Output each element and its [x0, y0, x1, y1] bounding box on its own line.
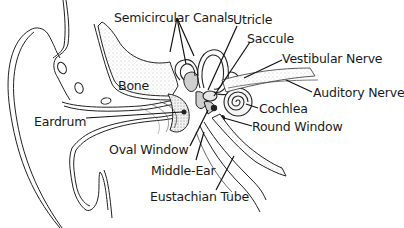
label-utricle: Utricle — [233, 14, 272, 27]
label-auditory-nerve: Auditory Nerve — [313, 87, 404, 100]
label-bone: Bone — [118, 80, 149, 93]
label-saccule: Saccule — [247, 33, 294, 46]
label-round-window: Round Window — [252, 121, 342, 134]
label-eardrum: Eardrum — [34, 116, 86, 129]
label-semicircular-canals: Semicircular Canals — [114, 12, 234, 25]
label-oval-window: Oval Window — [109, 144, 188, 157]
label-eustachian-tube: Eustachian Tube — [150, 191, 249, 204]
label-cochlea: Cochlea — [259, 103, 308, 116]
label-vestibular-nerve: Vestibular Nerve — [282, 53, 382, 66]
label-middle-ear: Middle-Ear — [151, 165, 216, 178]
